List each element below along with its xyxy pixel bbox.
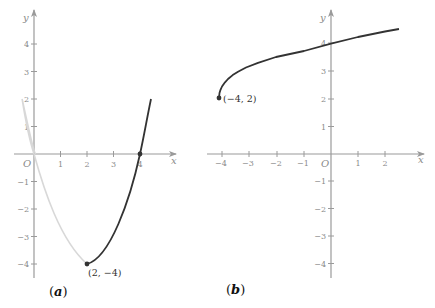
y-axis-label: y <box>319 12 326 23</box>
start-point-label: (−4, 2) <box>223 93 257 104</box>
y-tick-label: −2 <box>314 205 326 214</box>
vertex-label: (2, −4) <box>88 267 122 278</box>
y-tick-label: 2 <box>321 95 326 104</box>
sqrt-curve <box>219 29 399 98</box>
x-tick-label: 1 <box>355 159 360 168</box>
point-start <box>217 96 222 101</box>
y-tick-label: 3 <box>321 67 326 76</box>
x-tick-label: 2 <box>84 160 89 169</box>
parabola-right-branch <box>87 99 151 264</box>
y-tick-label: 4 <box>24 40 29 49</box>
origin-label: O <box>321 158 329 169</box>
x-tick-label: 3 <box>111 160 116 169</box>
x-axis-label: x <box>171 155 177 166</box>
y-axis-label: y <box>22 12 29 23</box>
x-tick-label: −4 <box>215 159 227 168</box>
origin-label: O <box>23 158 31 169</box>
y-tick-label: −4 <box>17 260 29 269</box>
y-tick-label: −1 <box>314 177 326 186</box>
panel-label-a: (a) <box>49 284 68 299</box>
y-tick-label: 3 <box>24 68 29 77</box>
x-tick-label: 2 <box>382 159 387 168</box>
y-tick-label: −1 <box>17 178 29 187</box>
point-x-intercept <box>138 152 143 157</box>
y-tick-label: −2 <box>17 205 29 214</box>
y-tick-label: −3 <box>314 232 326 241</box>
panel-label-b: (b) <box>226 282 245 297</box>
point-vertex <box>85 262 90 267</box>
x-tick-label: −3 <box>242 159 254 168</box>
y-tick-label: 2 <box>24 95 29 104</box>
graph-b: −4 −3 −2 −1 1 2 1 2 3 4 −1 −2 −3 −4 x <box>207 10 424 297</box>
figure: 1 2 3 4 1 2 3 4 −1 −2 −3 −4 x y O <box>0 0 435 308</box>
x-tick-label: 1 <box>58 160 63 169</box>
x-tick-label: −2 <box>270 159 282 168</box>
x-tick-label: −1 <box>297 159 309 168</box>
y-tick-label: −3 <box>17 233 29 242</box>
graph-a: 1 2 3 4 1 2 3 4 −1 −2 −3 −4 x y O <box>14 10 177 299</box>
x-axis-label: x <box>418 154 424 165</box>
y-tick-label: 1 <box>321 123 326 132</box>
y-tick-label: −4 <box>314 260 326 269</box>
